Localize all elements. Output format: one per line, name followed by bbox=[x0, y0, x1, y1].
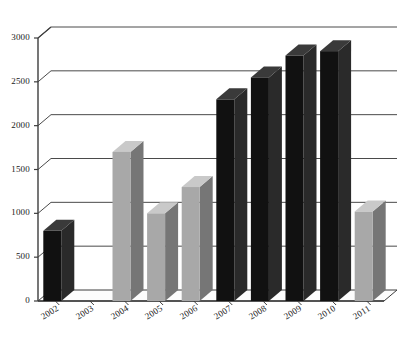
bar-2004 bbox=[113, 141, 144, 301]
y-tick-label-1000: 1000 bbox=[0, 207, 30, 217]
bar-2005 bbox=[147, 202, 178, 301]
y-tick-label-2500: 2500 bbox=[0, 76, 30, 86]
bar-2007 bbox=[216, 88, 247, 301]
y-tick-label-2000: 2000 bbox=[0, 120, 30, 130]
bar-2008 bbox=[251, 66, 282, 301]
y-tick-label-3000: 3000 bbox=[0, 32, 30, 42]
y-tick-label-1500: 1500 bbox=[0, 164, 30, 174]
bar-2010 bbox=[320, 40, 351, 301]
y-tick-label-0: 0 bbox=[0, 295, 30, 305]
bar-2011 bbox=[355, 201, 386, 301]
chart-canvas bbox=[0, 0, 414, 337]
bar-chart: 050010001500200025003000 200220032004200… bbox=[0, 0, 414, 337]
y-tick-label-500: 500 bbox=[0, 251, 30, 261]
bar-2006 bbox=[182, 176, 213, 301]
bar-2002 bbox=[43, 220, 74, 301]
y-axis-depth-edge bbox=[38, 27, 51, 38]
bar-2009 bbox=[286, 45, 317, 301]
gridline-3000 bbox=[38, 27, 397, 38]
